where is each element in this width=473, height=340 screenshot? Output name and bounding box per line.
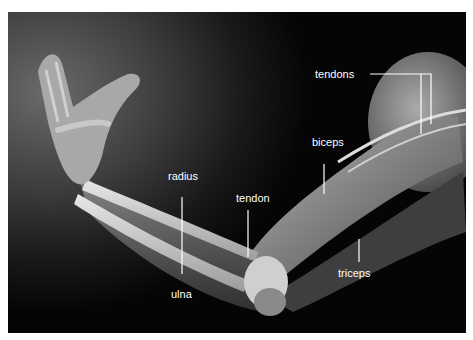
hand: [38, 54, 140, 184]
label-triceps: triceps: [338, 267, 370, 279]
label-tendon: tendon: [236, 192, 270, 204]
arm-illustration: [8, 12, 466, 333]
anatomy-illustration: tendons biceps radius tendon triceps uln…: [8, 12, 466, 333]
label-biceps: biceps: [312, 136, 344, 148]
label-ulna: ulna: [171, 288, 192, 300]
label-tendons: tendons: [315, 68, 354, 80]
label-radius: radius: [168, 170, 198, 182]
